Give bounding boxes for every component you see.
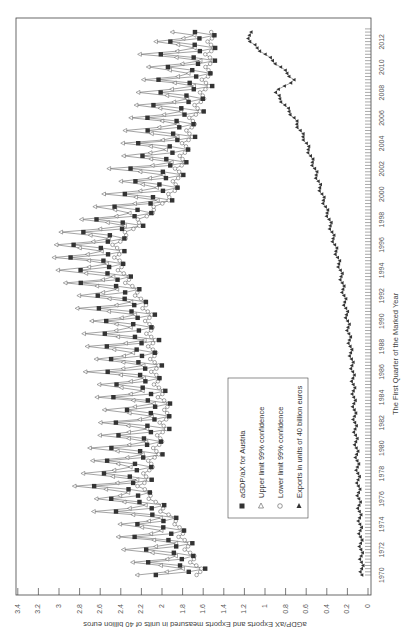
agdp-marker bbox=[153, 351, 157, 355]
value-tick-label: 0.2 bbox=[343, 604, 350, 614]
agdp-marker bbox=[174, 516, 178, 520]
exports-marker bbox=[333, 243, 337, 247]
upper-limit-marker bbox=[162, 113, 166, 117]
agdp-marker bbox=[105, 344, 109, 348]
exports-marker bbox=[352, 408, 356, 412]
lower-limit-marker bbox=[144, 475, 148, 479]
upper-limit-marker bbox=[144, 503, 148, 507]
agdp-marker bbox=[132, 214, 136, 218]
upper-limit-marker bbox=[181, 36, 185, 40]
upper-limit-marker bbox=[118, 494, 122, 498]
agdp-marker bbox=[149, 430, 153, 434]
exports-marker bbox=[273, 91, 277, 95]
value-tick-label: 0.4 bbox=[323, 604, 330, 614]
legend-label: Exports in units of 40 billion euros bbox=[295, 386, 304, 498]
lower-limit-marker bbox=[180, 141, 184, 145]
upper-limit-marker bbox=[121, 141, 125, 145]
upper-limit-marker bbox=[121, 548, 125, 552]
exports-marker bbox=[345, 319, 349, 323]
agdp-marker bbox=[137, 287, 141, 291]
agdp-marker bbox=[145, 128, 149, 132]
lower-limit-marker bbox=[198, 91, 202, 95]
upper-limit-marker bbox=[138, 52, 142, 56]
upper-limit-marker bbox=[159, 563, 163, 567]
lower-limit-marker bbox=[132, 227, 136, 231]
year-tick-label: 1994 bbox=[378, 263, 385, 279]
exports-marker bbox=[246, 37, 250, 41]
agdp-marker bbox=[92, 484, 96, 488]
agdp-marker bbox=[161, 189, 165, 193]
agdp-marker bbox=[167, 414, 171, 418]
upper-limit-marker bbox=[131, 351, 135, 355]
upper-limit-marker bbox=[136, 90, 140, 94]
agdp-marker bbox=[160, 452, 164, 456]
upper-limit-marker bbox=[106, 221, 110, 225]
lower-limit-marker bbox=[153, 338, 157, 342]
upper-limit-marker bbox=[157, 125, 161, 129]
lower-limit-marker bbox=[145, 332, 149, 336]
lower-limit-marker bbox=[195, 573, 199, 577]
axis-ticks: 00.20.40.60.811.21.41.61.822.22.42.62.83… bbox=[14, 29, 385, 614]
exports-marker bbox=[355, 494, 359, 498]
agdp-marker bbox=[116, 433, 120, 437]
upper-limit-marker bbox=[90, 459, 94, 463]
agdp-marker bbox=[97, 306, 101, 310]
agdp-marker bbox=[129, 309, 133, 313]
agdp-marker bbox=[193, 43, 197, 47]
agdp-marker bbox=[162, 503, 166, 507]
lower-limit-marker bbox=[178, 526, 182, 530]
exports-marker bbox=[349, 367, 353, 371]
upper-limit-marker bbox=[82, 332, 86, 336]
lower-limit-marker bbox=[154, 500, 158, 504]
agdp-marker bbox=[186, 147, 190, 151]
lower-limit-marker bbox=[188, 132, 192, 136]
upper-limit-marker bbox=[122, 354, 126, 358]
exports-marker bbox=[338, 278, 342, 282]
upper-limit-marker bbox=[90, 319, 94, 323]
agdp-marker bbox=[184, 93, 188, 97]
agdp-marker bbox=[168, 144, 172, 148]
agdp-marker bbox=[186, 100, 190, 104]
agdp-marker bbox=[161, 525, 165, 529]
lower-limit-marker bbox=[143, 487, 147, 491]
upper-limit-marker bbox=[94, 357, 98, 361]
agdp-marker bbox=[144, 547, 148, 551]
agdp-marker bbox=[68, 255, 72, 259]
y-axis-title: aGDP/aX Exports and Exports measured in … bbox=[83, 620, 307, 629]
agdp-marker bbox=[99, 246, 103, 250]
lower-limit-marker bbox=[158, 421, 162, 425]
upper-limit-marker bbox=[119, 179, 123, 183]
agdp-marker bbox=[71, 243, 75, 247]
lower-limit-marker bbox=[210, 49, 214, 53]
agdp-marker bbox=[114, 420, 118, 424]
lower-limit-marker bbox=[185, 129, 189, 133]
agdp-marker bbox=[152, 417, 156, 421]
agdp-marker bbox=[120, 227, 124, 231]
lower-limit-marker bbox=[155, 434, 159, 438]
upper-limit-marker bbox=[91, 510, 95, 514]
legend-label: Lower limit 99% confidence bbox=[276, 407, 285, 498]
lower-limit-marker bbox=[145, 214, 149, 218]
exports-marker bbox=[324, 214, 328, 218]
agdp-marker bbox=[129, 274, 133, 278]
upper-limit-marker bbox=[170, 30, 174, 34]
agdp-marker bbox=[134, 347, 138, 351]
year-tick-label: 2010 bbox=[378, 59, 385, 75]
lower-limit-marker bbox=[183, 548, 187, 552]
upper-limit-marker bbox=[141, 182, 145, 186]
exports-marker bbox=[285, 72, 289, 76]
agdp-marker bbox=[149, 411, 153, 415]
exports-marker bbox=[248, 40, 252, 44]
value-tick-label: 1.8 bbox=[179, 604, 186, 614]
lower-limit-marker bbox=[133, 294, 137, 298]
year-tick-label: 2012 bbox=[378, 34, 385, 50]
lower-limit-marker bbox=[167, 513, 171, 517]
lower-limit-marker bbox=[178, 154, 182, 158]
exports-marker bbox=[356, 507, 360, 511]
upper-limit-marker bbox=[121, 360, 125, 364]
upper-limit-marker bbox=[147, 519, 151, 523]
exports-marker bbox=[359, 561, 363, 565]
year-tick-label: 1972 bbox=[378, 542, 385, 558]
upper-limit-marker bbox=[102, 408, 106, 412]
agdp-marker bbox=[105, 271, 109, 275]
